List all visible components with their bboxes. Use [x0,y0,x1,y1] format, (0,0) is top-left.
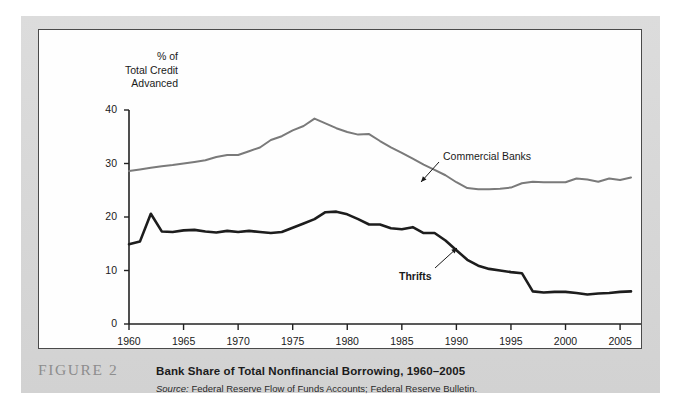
series-line-thrifts [129,212,631,295]
source-text: Federal Reserve Flow of Funds Accounts; … [189,383,477,394]
series-label-thrifts: Thrifts [399,270,432,282]
x-axis-tick-label: 1960 [107,335,151,347]
source-prefix: Source: [156,383,189,394]
y-axis-tick-label: 20 [87,210,117,222]
x-axis-tick-label: 1990 [434,335,478,347]
figure-panel: % of Total Credit Advanced 0102030401960… [21,16,660,393]
y-axis-tick-label: 40 [87,103,117,115]
x-axis-tick-label: 1995 [489,335,533,347]
y-axis-tick-label: 30 [87,157,117,169]
figure-number: FIGURE 2 [38,361,156,379]
figure-root: % of Total Credit Advanced 0102030401960… [0,0,685,408]
x-axis-tick-label: 1985 [380,335,424,347]
x-axis-tick-label: 1965 [162,335,206,347]
plot-area: 0102030401960196519701975198019851990199… [39,30,643,350]
figure-source: Source: Federal Reserve Flow of Funds Ac… [156,383,644,394]
x-axis-tick-label: 1980 [325,335,369,347]
figure-caption: FIGURE 2 Bank Share of Total Nonfinancia… [38,361,644,394]
caption-title-row: FIGURE 2 Bank Share of Total Nonfinancia… [38,361,644,379]
y-axis-tick-label: 10 [87,264,117,276]
x-axis-tick-label: 2000 [544,335,588,347]
x-axis-tick-label: 1970 [216,335,260,347]
series-line-commercial-banks [129,119,631,190]
x-axis-tick-label: 1975 [271,335,315,347]
figure-title: Bank Share of Total Nonfinancial Borrowi… [156,365,465,377]
x-axis-tick-label: 2005 [598,335,642,347]
series-label-commercial-banks: Commercial Banks [443,150,531,162]
chart-svg [39,30,643,350]
y-axis-tick-label: 0 [87,317,117,329]
chart-plot-box: % of Total Credit Advanced 0102030401960… [38,29,642,349]
